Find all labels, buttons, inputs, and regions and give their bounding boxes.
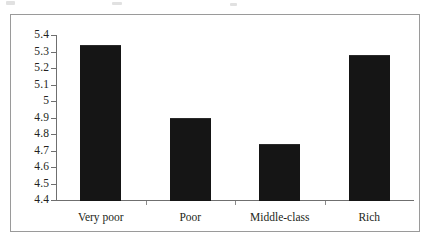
y-axis-tick: [51, 35, 56, 36]
scan-artifact: [0, 0, 434, 11]
y-axis-tick: [51, 118, 56, 119]
y-axis-tick: [51, 68, 56, 69]
y-axis-tick-label: 5: [15, 95, 49, 107]
y-axis-tick-label: 4.8: [15, 128, 49, 140]
y-axis-tick: [51, 134, 56, 135]
y-axis-tick-labels: 5.45.35.25.154.94.84.74.64.54.4: [11, 15, 49, 233]
x-axis-category-label: Poor: [146, 211, 236, 223]
x-axis-category-label: Rich: [325, 211, 415, 223]
y-axis-tick-label: 4.6: [15, 161, 49, 173]
y-axis-tick-label: 5.4: [15, 29, 49, 41]
bar: [349, 55, 390, 201]
y-axis-tick-label: 4.9: [15, 112, 49, 124]
bar: [170, 118, 211, 202]
y-axis-line: [56, 35, 57, 201]
y-axis-tick-label: 5.3: [15, 46, 49, 58]
y-axis-tick: [51, 52, 56, 53]
x-axis-separator-tick: [146, 201, 147, 205]
y-axis-tick-label: 4.5: [15, 178, 49, 190]
chart-frame: 5.45.35.25.154.94.84.74.64.54.4 Very poo…: [10, 14, 420, 232]
y-axis-tick: [51, 101, 56, 102]
x-axis-separator-tick: [325, 201, 326, 205]
y-axis-tick-label: 4.4: [15, 194, 49, 206]
y-axis-tick-label: 5.1: [15, 79, 49, 91]
bar: [80, 45, 121, 201]
y-axis-tick: [51, 167, 56, 168]
x-axis-category-label: Middle-class: [235, 211, 325, 223]
y-axis-tick: [51, 151, 56, 152]
x-axis-category-label: Very poor: [56, 211, 146, 223]
y-axis-tick-label: 4.7: [15, 145, 49, 157]
y-axis-tick: [51, 200, 56, 201]
y-axis-tick: [51, 85, 56, 86]
y-axis-tick: [51, 184, 56, 185]
bar: [259, 144, 300, 201]
x-axis-separator-tick: [235, 201, 236, 205]
y-axis-tick-label: 5.2: [15, 62, 49, 74]
